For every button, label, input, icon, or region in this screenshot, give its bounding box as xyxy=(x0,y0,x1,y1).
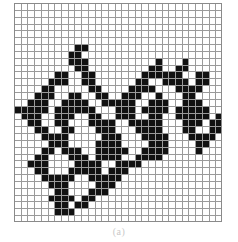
figure-panel: (a) xyxy=(0,0,238,242)
grid-canvas xyxy=(14,3,222,222)
pixel-grid xyxy=(14,3,222,222)
figure-caption: (a) xyxy=(0,226,238,237)
